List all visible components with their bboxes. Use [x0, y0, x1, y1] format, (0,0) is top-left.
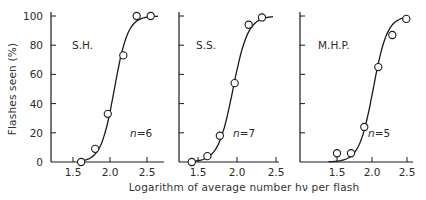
x-tick-label: 1.5	[65, 166, 82, 178]
x-tick-label: 2.5	[139, 166, 156, 178]
data-point	[333, 150, 340, 157]
n-label: n=6	[130, 127, 152, 139]
data-point	[147, 12, 154, 19]
subject-label: M.H.P.	[318, 39, 349, 51]
panel-mhp: 1.52.02.5M.H.P.n=5	[300, 12, 415, 178]
chart-panels: 0204060801001.52.02.5S.H.n=61.52.02.5S.S…	[23, 10, 415, 178]
subject-label: S.S.	[196, 39, 216, 51]
data-point	[120, 52, 127, 59]
x-tick-label: 1.5	[190, 166, 207, 178]
data-point	[258, 14, 265, 21]
y-tick-label: 60	[30, 68, 43, 80]
panel-sh: 0204060801001.52.02.5S.H.n=6	[23, 10, 164, 178]
data-point	[188, 158, 195, 165]
data-point	[403, 15, 410, 22]
psychometric-chart: 0204060801001.52.02.5S.H.n=61.52.02.5S.S…	[0, 0, 426, 200]
data-point	[104, 110, 111, 117]
subject-label: S.H.	[72, 39, 93, 51]
x-axis-title: Logarithm of average number hν per flash	[129, 181, 360, 193]
y-tick-label: 0	[36, 156, 43, 168]
x-tick-label: 2.5	[399, 166, 416, 178]
x-tick-label: 1.5	[329, 166, 346, 178]
data-point	[245, 21, 252, 28]
data-point	[361, 123, 368, 130]
n-label: n=5	[368, 127, 390, 139]
x-tick-label: 2.0	[229, 166, 246, 178]
data-point	[375, 64, 382, 71]
n-label: n=7	[233, 127, 255, 139]
data-point	[347, 150, 354, 157]
y-tick-label: 80	[30, 39, 43, 51]
data-point	[216, 132, 223, 139]
data-point	[92, 145, 99, 152]
data-point	[204, 153, 211, 160]
y-tick-label: 20	[30, 127, 43, 139]
fit-curve	[79, 16, 158, 161]
data-point	[231, 80, 238, 87]
data-point	[389, 31, 396, 38]
data-point	[133, 12, 140, 19]
data-point	[78, 158, 85, 165]
x-tick-label: 2.0	[364, 166, 381, 178]
panel-ss: 1.52.02.5S.S.n=7	[179, 12, 284, 178]
x-tick-label: 2.5	[268, 166, 285, 178]
y-tick-label: 40	[30, 98, 43, 110]
y-tick-label: 100	[23, 10, 43, 22]
y-axis-title: Flashes seen (%)	[6, 43, 18, 136]
x-tick-label: 2.0	[102, 166, 119, 178]
